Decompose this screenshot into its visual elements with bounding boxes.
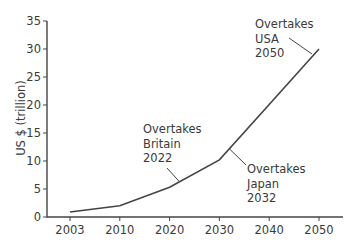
y-tick-label: 15 [26, 126, 41, 140]
annotation: OvertakesUSA2050 [255, 17, 314, 60]
annotation-label: OvertakesJapan2032 [246, 162, 306, 205]
annotation: OvertakesBritain2022 [143, 122, 202, 182]
x-tick-label: 2050 [304, 223, 333, 237]
y-axis-label-group: US $ (trillion) [14, 80, 28, 156]
y-tick-label: 0 [34, 210, 41, 224]
annotation-label: OvertakesBritain2022 [143, 122, 202, 165]
y-tick-label: 35 [26, 14, 41, 28]
y-tick-label: 25 [26, 70, 41, 84]
annotation-line: Overtakes [255, 17, 314, 31]
annotation-label: OvertakesUSA2050 [255, 17, 314, 60]
annotations: OvertakesBritain2022OvertakesJapan2032Ov… [143, 17, 314, 205]
x-tick-label: 2003 [55, 223, 84, 237]
annotation-line: Overtakes [143, 122, 202, 136]
x-tick-label: 2010 [105, 223, 134, 237]
line-chart: US $ (trillion) 05101520253035 200320102… [0, 0, 356, 252]
x-tick-label: 2030 [205, 223, 234, 237]
axes [47, 21, 343, 218]
y-axis-label: US $ (trillion) [14, 80, 28, 156]
y-tick-label: 10 [26, 154, 41, 168]
annotation-line: USA [255, 32, 279, 46]
annotation-leader-line [229, 149, 246, 165]
y-tick-label: 20 [26, 98, 41, 112]
annotation-line: Japan [246, 177, 279, 191]
y-tick-label: 30 [26, 42, 41, 56]
x-axis-ticks: 200320102020203020402050 [55, 217, 333, 237]
x-tick-label: 2020 [155, 223, 184, 237]
annotation-line: Overtakes [247, 162, 306, 176]
x-tick-label: 2040 [255, 223, 284, 237]
annotation-leader-line [167, 168, 180, 182]
y-axis-ticks: 05101520253035 [26, 14, 47, 224]
annotation-line: 2050 [255, 46, 284, 60]
annotation-line: 2022 [143, 151, 172, 165]
annotation: OvertakesJapan2032 [229, 149, 305, 205]
annotation-leader-line [289, 38, 312, 54]
annotation-line: 2032 [247, 191, 276, 205]
y-tick-label: 5 [34, 182, 41, 196]
annotation-line: Britain [143, 137, 181, 151]
